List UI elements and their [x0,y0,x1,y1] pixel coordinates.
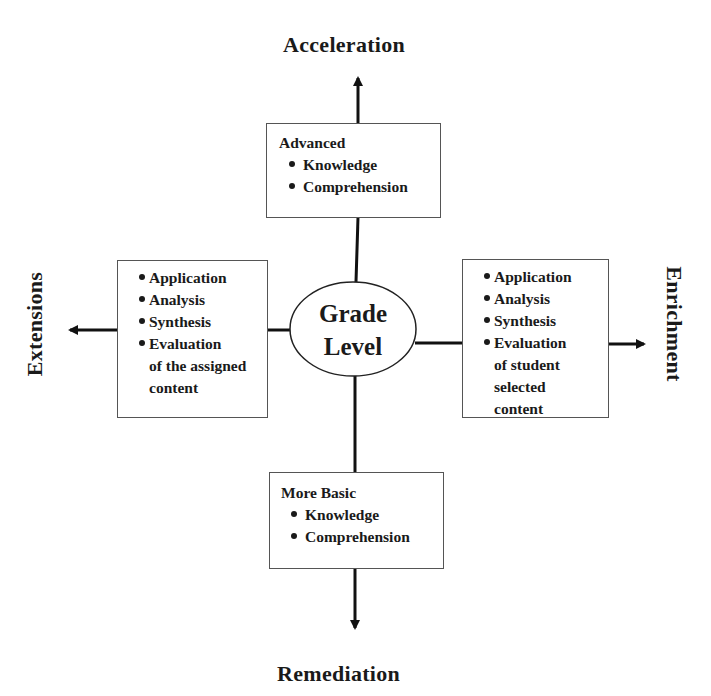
bullet-icon [484,295,490,301]
bullet-icon [484,273,490,279]
bullet-icon [139,318,145,324]
list-item: Analysis [484,288,608,310]
list-item: Comprehension [291,526,443,548]
label-enrichment: Enrichment [661,264,687,384]
connector-top-box-to-center [356,217,358,282]
evaluation-continuation: content [484,398,608,420]
bullet-icon [291,533,297,539]
list-item: Evaluation [139,333,267,355]
bullet-icon [139,340,145,346]
bullet-icon [289,183,295,189]
list-item: Application [139,267,267,289]
list-item: Analysis [139,289,267,311]
bullet-icon [484,317,490,323]
bullet-icon [139,296,145,302]
list-item: Synthesis [139,311,267,333]
bullet-icon [289,161,295,167]
list-item: Knowledge [291,504,443,526]
evaluation-continuation: of the assigned [139,355,267,377]
grade-level-label: Grade Level [293,297,413,363]
extensions-box: Application Analysis Synthesis Evaluatio… [117,260,268,418]
list-item: Synthesis [484,310,608,332]
list-item: Evaluation [484,332,608,354]
evaluation-continuation: content [139,377,267,399]
bullet-icon [484,339,490,345]
advanced-box: Advanced Knowledge Comprehension [266,123,441,218]
bullet-icon [139,274,145,280]
list-item: Knowledge [289,154,440,176]
bullet-icon [291,511,297,517]
label-remediation: Remediation [277,661,400,687]
grade-level-line-1: Grade [293,297,413,330]
more-basic-box: More Basic Knowledge Comprehension [269,472,444,569]
label-extensions: Extensions [22,264,48,384]
grade-level-line-2: Level [293,330,413,363]
list-item: Comprehension [289,176,440,198]
list-item: Application [484,266,608,288]
evaluation-continuation: selected [484,376,608,398]
enrichment-box: Application Analysis Synthesis Evaluatio… [462,259,609,418]
advanced-heading: Advanced [279,132,440,154]
label-acceleration: Acceleration [283,32,405,58]
more-basic-heading: More Basic [281,482,443,504]
evaluation-continuation: of student [484,354,608,376]
